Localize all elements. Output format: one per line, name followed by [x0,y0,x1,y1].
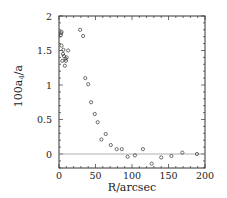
scatter-chart: 05010015020000.511.52 R/arcsec 100a4/a [0,0,227,198]
svg-text:0: 0 [46,149,52,160]
data-point [96,121,99,124]
data-point [160,156,163,159]
data-point [62,48,65,51]
data-point [141,148,144,151]
data-point [109,143,112,146]
tick-labels: 05010015020000.511.52 [37,11,214,182]
data-point [115,148,118,151]
data-points [59,28,198,165]
svg-text:100: 100 [123,170,141,181]
data-point [126,155,129,158]
plot-frame [59,16,205,168]
data-point [84,77,87,80]
x-axis-label: R/arcsec [108,181,156,194]
svg-text:2: 2 [46,11,52,22]
data-point [81,34,84,37]
data-point [60,44,63,47]
svg-text:200: 200 [196,170,214,181]
data-point [90,101,93,104]
svg-text:0.5: 0.5 [37,114,52,125]
svg-text:150: 150 [159,170,177,181]
svg-text:50: 50 [89,170,101,181]
svg-text:1.5: 1.5 [37,45,52,56]
data-point [93,112,96,115]
data-point [100,138,103,141]
svg-text:0: 0 [56,170,62,181]
data-point [63,64,66,67]
data-point [67,49,70,52]
y-axis-label: 100a4/a [12,64,26,107]
data-point [87,83,90,86]
svg-text:1: 1 [46,80,52,91]
data-point [104,132,107,135]
data-point [170,154,173,157]
data-point [120,148,123,151]
data-point [150,162,153,165]
data-point [79,28,82,31]
data-point [61,59,64,62]
axis-ticks [59,16,205,168]
